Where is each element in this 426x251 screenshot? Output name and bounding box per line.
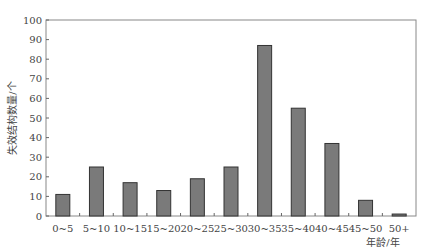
y-axis: 0102030405060708090100 — [23, 15, 49, 222]
x-tick-label: 30~35 — [248, 223, 282, 234]
y-tick-label: 40 — [29, 132, 42, 143]
x-tick-label: 35~40 — [281, 223, 315, 234]
x-tick-label: 20~25 — [180, 223, 214, 234]
bar-15~20 — [157, 191, 171, 216]
bar-35~40 — [291, 108, 305, 216]
y-tick-label: 30 — [29, 152, 42, 163]
bar-chart: 0102030405060708090100 0~55~1010~1515~20… — [0, 0, 426, 251]
x-tick-label: 15~20 — [147, 223, 181, 234]
x-tick-label: 40~45 — [315, 223, 349, 234]
bar-10~15 — [123, 183, 137, 216]
x-tick-label: 0~5 — [52, 223, 73, 234]
x-axis-label: 年龄/年 — [366, 236, 399, 248]
bar-0~5 — [56, 194, 70, 216]
bar-5~10 — [89, 167, 103, 216]
x-tick-label: 10~15 — [113, 223, 147, 234]
bar-40~45 — [325, 143, 339, 216]
bar-25~30 — [224, 167, 238, 216]
bar-30~35 — [258, 45, 272, 216]
bar-20~25 — [190, 179, 204, 216]
x-tick-label: 45~50 — [349, 223, 383, 234]
y-tick-label: 20 — [29, 171, 42, 182]
y-tick-label: 0 — [36, 211, 42, 222]
bar-45~50 — [359, 200, 373, 216]
x-tick-label: 5~10 — [83, 223, 110, 234]
bars — [56, 45, 406, 216]
x-tick-label: 50+ — [389, 223, 410, 234]
y-axis-label: 失效结构数量/个 — [6, 81, 18, 154]
y-tick-label: 60 — [29, 93, 42, 104]
y-tick-label: 100 — [23, 15, 42, 26]
bar-50+ — [392, 214, 406, 216]
y-tick-label: 10 — [29, 191, 42, 202]
y-tick-label: 50 — [29, 113, 42, 124]
y-tick-label: 80 — [29, 54, 42, 65]
x-tick-label: 25~30 — [214, 223, 248, 234]
y-tick-label: 70 — [29, 73, 42, 84]
y-tick-label: 90 — [29, 34, 42, 45]
